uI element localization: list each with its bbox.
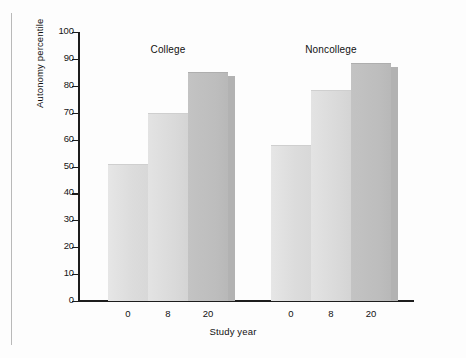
bar-side-face [391, 67, 398, 301]
x-tick-label: 20 [188, 308, 228, 319]
y-tick-label: 100 [58, 25, 74, 36]
bar-noncollege-year-20 [351, 63, 391, 301]
group-label-college: College [108, 44, 228, 55]
y-tick-label: 10 [64, 267, 74, 278]
plot-area: 0102030405060708090100 [78, 32, 410, 301]
y-tick-label: 90 [64, 52, 74, 63]
y-tick-label: 0 [69, 294, 74, 305]
y-tick-label: 80 [64, 79, 74, 90]
group-label-noncollege: Noncollege [271, 44, 391, 55]
x-tick-label: 20 [351, 308, 391, 319]
bar-college-year-8 [148, 113, 188, 301]
page-edge-rule [11, 13, 12, 345]
x-tick-label: 0 [271, 308, 311, 319]
y-axis-title-label: Autonomy percentile [34, 19, 45, 108]
y-tick-label: 40 [64, 186, 74, 197]
bar-noncollege-year-0 [271, 145, 311, 301]
x-tick-label: 0 [108, 308, 148, 319]
y-tick-label: 30 [64, 213, 74, 224]
figure-bar-chart: Autonomy percentile 01020304050607080901… [0, 0, 466, 358]
y-tick-label: 50 [64, 160, 74, 171]
x-tick-label: 8 [311, 308, 351, 319]
y-tick-label: 20 [64, 240, 74, 251]
bar-side-face [228, 76, 235, 301]
y-tick-label: 60 [64, 133, 74, 144]
bar-college-year-0 [108, 164, 148, 301]
x-tick-label: 8 [148, 308, 188, 319]
x-axis-title: Study year [0, 326, 466, 337]
bar-college-year-20 [188, 72, 228, 301]
bar-noncollege-year-8 [311, 90, 351, 301]
y-tick-label: 70 [64, 106, 74, 117]
